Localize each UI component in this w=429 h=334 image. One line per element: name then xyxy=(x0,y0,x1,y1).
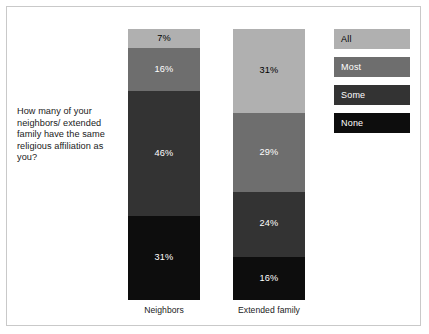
bar-segment-value-label: 29% xyxy=(260,148,279,157)
bar-segment-all: 7% xyxy=(128,29,200,48)
bar-segment-most: 29% xyxy=(233,113,305,192)
bar-segment-value-label: 16% xyxy=(260,274,279,283)
bar-segment-value-label: 24% xyxy=(260,219,279,228)
stacked-bar: 31%29%24%16% xyxy=(233,29,305,300)
bar-segment-none: 16% xyxy=(233,257,305,300)
bar-segment-value-label: 16% xyxy=(155,65,174,74)
legend-item-label: Most xyxy=(334,62,361,72)
legend-item-none[interactable]: None xyxy=(334,113,410,133)
legend: AllMostSomeNone xyxy=(334,29,410,141)
bar-segment-value-label: 46% xyxy=(155,149,174,158)
category-label-neighbors: Neighbors xyxy=(109,305,219,315)
legend-item-label: Some xyxy=(334,90,365,100)
legend-item-all[interactable]: All xyxy=(334,29,410,49)
legend-item-label: None xyxy=(334,118,363,128)
bar-segment-some: 24% xyxy=(233,192,305,257)
chart-figure: How many of your neighbors/ extended fam… xyxy=(0,0,429,334)
category-label-extended-family: Extended family xyxy=(214,305,324,315)
bar-group-extended-family: 31%29%24%16% xyxy=(233,29,305,300)
legend-item-label: All xyxy=(334,34,352,44)
bar-segment-all: 31% xyxy=(233,29,305,113)
bar-segment-value-label: 31% xyxy=(260,66,279,75)
bar-segment-value-label: 7% xyxy=(157,34,171,43)
bar-segment-none: 31% xyxy=(128,216,200,300)
legend-item-some[interactable]: Some xyxy=(334,85,410,105)
bar-segment-most: 16% xyxy=(128,48,200,91)
bar-group-neighbors: 7%16%46%31% xyxy=(128,29,200,300)
stacked-bar: 7%16%46%31% xyxy=(128,29,200,300)
legend-item-most[interactable]: Most xyxy=(334,57,410,77)
bar-segment-value-label: 31% xyxy=(155,253,174,262)
bar-segment-some: 46% xyxy=(128,91,200,216)
